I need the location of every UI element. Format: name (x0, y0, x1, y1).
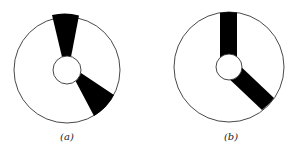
inner-circle-b (216, 54, 242, 80)
inner-circle-a (53, 56, 81, 84)
figure-a (14, 13, 120, 123)
caption-a: (a) (47, 131, 87, 142)
figure-b (174, 12, 284, 122)
diagram-canvas (0, 0, 295, 151)
caption-b: (b) (211, 131, 251, 142)
